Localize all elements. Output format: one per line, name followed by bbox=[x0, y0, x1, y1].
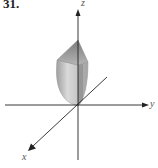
z-axis-label: z bbox=[81, 0, 85, 8]
3d-solid-diagram bbox=[0, 0, 158, 168]
y-axis-label: y bbox=[150, 98, 154, 109]
x-axis-label: x bbox=[22, 151, 26, 162]
solid-region bbox=[56, 40, 88, 106]
